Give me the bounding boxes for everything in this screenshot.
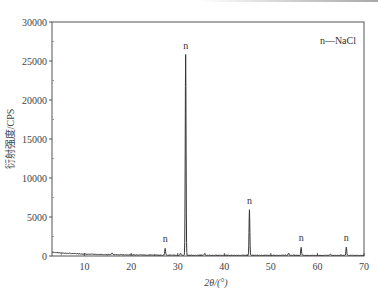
x-tick-label: 40 xyxy=(219,261,229,272)
x-tick-label: 50 xyxy=(266,261,276,272)
y-tick-label: 20000 xyxy=(22,95,47,106)
y-axis-label: 衍射强度/CPS xyxy=(4,109,16,170)
x-tick-label: 70 xyxy=(359,261,369,272)
legend-text: n—NaCl xyxy=(320,35,356,46)
y-tick-label: 15000 xyxy=(22,134,47,145)
y-tick-label: 25000 xyxy=(22,56,47,67)
xrd-chart: 0500010000150002000025000300001020304050… xyxy=(0,0,378,291)
x-tick-label: 20 xyxy=(126,261,136,272)
y-tick-label: 0 xyxy=(42,251,47,262)
plot-frame xyxy=(52,22,364,256)
x-tick-label: 10 xyxy=(80,261,90,272)
peak-label: n xyxy=(163,233,168,244)
peak-label: n xyxy=(247,195,252,206)
xrd-pattern-line xyxy=(52,55,364,256)
y-tick-label: 5000 xyxy=(27,212,47,223)
peak-label: n xyxy=(344,232,349,243)
y-tick-label: 30000 xyxy=(22,17,47,28)
peak-label: n xyxy=(299,232,304,243)
x-tick-label: 60 xyxy=(312,261,322,272)
peak-label: n xyxy=(183,40,188,51)
y-tick-label: 10000 xyxy=(22,173,47,184)
x-axis-label: 2θ/(°) xyxy=(204,277,228,289)
x-tick-label: 30 xyxy=(173,261,183,272)
